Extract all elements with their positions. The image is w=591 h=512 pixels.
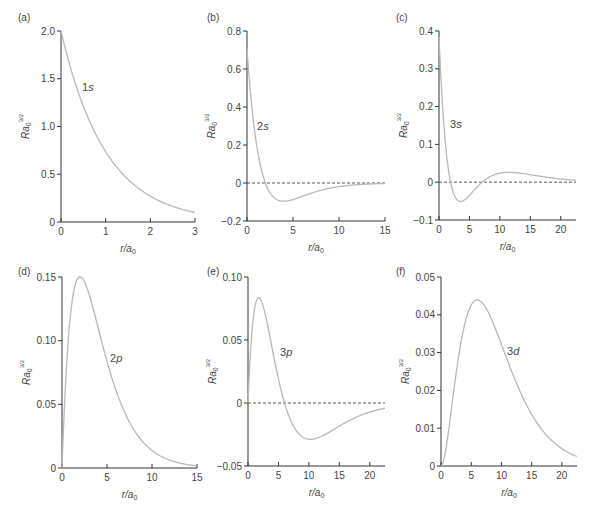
x-tick-label: 0 (244, 225, 250, 236)
panel-label-e: (e) (207, 266, 219, 277)
y-tick-label: 0.04 (416, 309, 436, 320)
y-axis-title: Ra03/2 (396, 112, 410, 138)
radial-function-curve-1s (61, 31, 195, 212)
y-tick-label: 0.05 (37, 399, 57, 410)
y-tick-label: 0 (50, 463, 56, 474)
x-tick-label: 15 (526, 470, 538, 481)
y-tick-label: 0.2 (419, 101, 433, 112)
panel-label-d: (d) (18, 266, 30, 277)
y-tick-label: 0.01 (416, 423, 436, 434)
x-tick-label: 5 (467, 224, 473, 235)
x-tick-label: 2 (148, 226, 154, 237)
x-tick-label: 5 (104, 472, 110, 483)
y-tick-label: 0.1 (419, 139, 433, 150)
x-axis-title: r/a0 (501, 487, 517, 499)
y-tick-label: 0.8 (227, 26, 241, 37)
x-tick-label: 10 (333, 225, 345, 236)
x-tick-label: 15 (334, 470, 346, 481)
radial-function-curve-3d (441, 300, 577, 466)
curve-label-2s: 2s (257, 120, 269, 132)
x-tick-label: 20 (556, 470, 568, 481)
y-tick-label: 0 (49, 217, 55, 228)
x-tick-label: 10 (496, 470, 508, 481)
y-axis-title: Ra03/2 (204, 113, 218, 139)
radial-function-curve-2p (62, 277, 197, 468)
x-tick-label: 1 (103, 226, 109, 237)
x-tick-label: 15 (191, 472, 203, 483)
x-tick-label: 0 (59, 472, 65, 483)
curve-label-3p: 3p (280, 346, 292, 358)
x-axis-title: r/a0 (309, 487, 325, 499)
x-tick-label: 3 (192, 226, 198, 237)
x-tick-label: 5 (276, 470, 282, 481)
y-tick-label: 0.10 (37, 335, 57, 346)
panel-label-a: (a) (18, 12, 30, 23)
curve-label-3d: 3d (507, 345, 520, 357)
y-tick-label: 0 (427, 177, 433, 188)
x-axis-title: r/a0 (120, 243, 136, 255)
x-tick-label: 20 (555, 224, 567, 235)
x-tick-label: 5 (290, 225, 296, 236)
x-tick-label: 15 (525, 224, 537, 235)
x-axis-title: r/a0 (122, 489, 138, 501)
y-tick-label: 0.4 (419, 26, 433, 37)
y-axis-title: Ra03/2 (205, 358, 219, 384)
y-tick-label: 0.6 (227, 64, 241, 75)
panel-label-f: (f) (396, 266, 405, 277)
y-tick-label: −0.2 (221, 216, 241, 227)
panel-label-c: (c) (396, 12, 408, 23)
y-tick-label: 0.02 (416, 385, 436, 396)
y-tick-label: 0.10 (223, 272, 243, 283)
y-tick-label: 1.5 (41, 73, 55, 84)
x-tick-label: 5 (468, 470, 474, 481)
y-tick-label: 0 (429, 461, 435, 472)
y-tick-label: 0.15 (37, 272, 57, 283)
curve-label-3s: 3s (450, 118, 462, 130)
x-tick-label: 0 (438, 470, 444, 481)
y-tick-label: 0.4 (227, 102, 241, 113)
y-tick-label: 1.0 (41, 121, 55, 132)
x-tick-label: 0 (58, 226, 64, 237)
x-axis-title: r/a0 (500, 241, 516, 253)
figure-canvas: (a)00.51.01.52.001231sr/a0Ra03/2(b)−0.20… (0, 0, 591, 512)
y-tick-label: −0.1 (413, 215, 433, 226)
y-tick-label: 0.05 (416, 272, 436, 283)
curve-label-2p: 2p (110, 352, 122, 364)
x-tick-label: 20 (364, 470, 376, 481)
y-tick-label: 2.0 (41, 26, 55, 37)
y-tick-label: 0 (235, 178, 241, 189)
y-tick-label: 0.2 (227, 140, 241, 151)
y-tick-label: 0.05 (223, 335, 243, 346)
y-tick-label: 0.3 (419, 63, 433, 74)
panel-label-b: (b) (207, 12, 219, 23)
y-tick-label: 0 (236, 398, 242, 409)
x-tick-label: 0 (245, 470, 251, 481)
curve-label-1s: 1s (82, 81, 94, 93)
y-axis-title: Ra03/2 (18, 113, 32, 139)
x-tick-label: 10 (494, 224, 506, 235)
x-tick-label: 10 (146, 472, 158, 483)
radial-function-curve-3p (248, 298, 385, 440)
y-tick-label: 0.5 (41, 169, 55, 180)
x-tick-label: 0 (436, 224, 442, 235)
y-axis-title: Ra03/2 (19, 359, 33, 385)
x-tick-label: 10 (303, 470, 315, 481)
x-tick-label: 15 (379, 225, 391, 236)
y-axis-title: Ra03/2 (398, 358, 412, 384)
y-tick-label: −0.05 (217, 461, 243, 472)
y-tick-label: 0.03 (416, 347, 436, 358)
x-axis-title: r/a0 (308, 242, 324, 254)
